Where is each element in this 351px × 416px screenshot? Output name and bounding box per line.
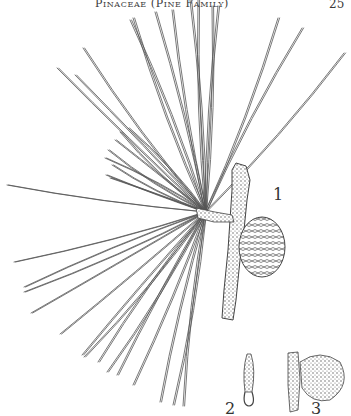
pine-needle	[24, 212, 205, 292]
pine-needle	[26, 212, 207, 287]
figure-label-1: 1	[273, 185, 283, 204]
needle-group	[7, 0, 346, 406]
pine-needle	[26, 212, 207, 292]
pine-illustration: 1 2 3	[0, 0, 351, 416]
pine-needle	[33, 212, 207, 313]
figure-2-detail	[244, 354, 254, 406]
pine-needle	[59, 68, 207, 212]
pine-needle	[24, 212, 205, 287]
figure-label-2: 2	[225, 399, 235, 416]
pine-needle	[7, 185, 205, 212]
pine-needle	[207, 28, 304, 212]
pine-cone	[239, 217, 285, 277]
pine-needle	[75, 75, 205, 212]
figure-label-3: 3	[311, 399, 321, 416]
